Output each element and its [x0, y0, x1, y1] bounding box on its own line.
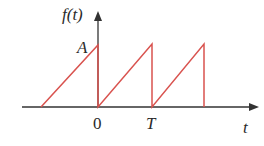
sawtooth-diagram: f(t) A 0 T t	[0, 0, 264, 146]
tick-label-period: T	[146, 114, 157, 133]
sawtooth-waveform	[41, 44, 204, 107]
x-axis-arrow-icon	[249, 103, 259, 111]
y-axis-label: f(t)	[62, 5, 83, 24]
x-axis	[22, 103, 259, 111]
x-axis-label: t	[243, 118, 249, 137]
y-axis-arrow-icon	[94, 11, 102, 21]
tick-label-zero: 0	[93, 114, 102, 133]
amplitude-label: A	[76, 38, 88, 57]
